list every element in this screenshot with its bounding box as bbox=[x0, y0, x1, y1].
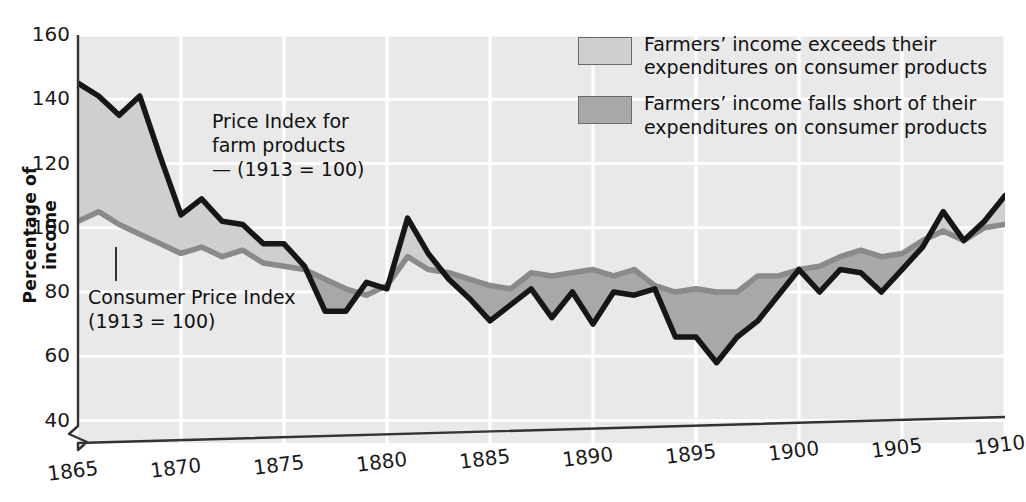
legend-item-1: Farmers’ income falls short of their exp… bbox=[578, 92, 998, 138]
x-tick-1865: 1865 bbox=[46, 456, 99, 486]
x-tick-1875: 1875 bbox=[252, 450, 305, 480]
legend-item-0: Farmers’ income exceeds their expenditur… bbox=[578, 33, 998, 79]
x-tick-1900: 1900 bbox=[767, 436, 820, 466]
legend-label-0: Farmers’ income exceeds their expenditur… bbox=[644, 33, 987, 79]
x-tick-1880: 1880 bbox=[355, 447, 408, 477]
x-tick-1885: 1885 bbox=[458, 444, 511, 474]
annotation-consumer-price-index: Consumer Price Index (1913 = 100) bbox=[88, 286, 296, 334]
annotation-farm-price-index: Price Index for farm products — (1913 = … bbox=[212, 110, 364, 181]
legend-label-1: Farmers’ income falls short of their exp… bbox=[644, 92, 987, 138]
x-tick-1890: 1890 bbox=[561, 441, 614, 471]
x-tick-1905: 1905 bbox=[870, 433, 923, 463]
x-tick-1870: 1870 bbox=[149, 453, 202, 483]
x-tick-1910: 1910 bbox=[973, 430, 1026, 460]
x-tick-1895: 1895 bbox=[664, 438, 717, 468]
legend: Farmers’ income exceeds their expenditur… bbox=[578, 33, 998, 152]
legend-swatch-0 bbox=[578, 37, 632, 65]
legend-swatch-1 bbox=[578, 96, 632, 124]
